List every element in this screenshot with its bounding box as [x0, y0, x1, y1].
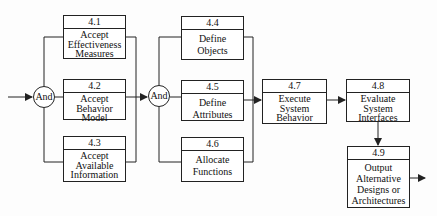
label-line: Interfaces	[347, 113, 409, 123]
function-box-4-5: 4.5 Define Attributes	[181, 80, 244, 121]
box-label: Output Alternative Designs or Architectu…	[348, 160, 409, 206]
box-number: 4.7	[263, 80, 326, 93]
box-label: Evaluate System Interfaces	[347, 93, 409, 123]
label-line: Functions	[182, 166, 243, 178]
label-line: Attributes	[182, 109, 243, 121]
function-box-4-6: 4.6 Allocate Functions	[181, 137, 244, 182]
box-number: 4.4	[182, 17, 243, 30]
box-number: 4.5	[182, 81, 243, 94]
box-label: Execute System Behavior	[263, 93, 326, 123]
box-label: Define Attributes	[182, 94, 243, 121]
box-label: Allocate Functions	[182, 151, 243, 178]
label-line: Model	[64, 113, 125, 123]
function-box-4-7: 4.7 Execute System Behavior	[262, 79, 327, 124]
box-label: Accept Available Information	[64, 150, 125, 180]
box-number: 4.1	[64, 16, 125, 29]
and-gate-1: And	[33, 86, 55, 108]
function-box-4-8: 4.8 Evaluate System Interfaces	[346, 79, 410, 122]
label-line: Output	[348, 162, 409, 173]
box-label: Define Objects	[182, 30, 243, 57]
label-line: Define	[182, 33, 243, 45]
box-number: 4.6	[182, 138, 243, 151]
label-line: Behavior	[263, 113, 326, 123]
label-line: Information	[64, 170, 125, 180]
function-box-4-9: 4.9 Output Alternative Designs or Archit…	[347, 146, 410, 208]
label-line: Objects	[182, 45, 243, 57]
label-line: Alternative	[348, 173, 409, 184]
label-line: Architectures	[348, 195, 409, 206]
box-number: 4.8	[347, 80, 409, 93]
box-label: Accept Effectiveness Measures	[64, 29, 125, 59]
label-line: Define	[182, 97, 243, 109]
function-box-4-3: 4.3 Accept Available Information	[63, 136, 126, 182]
functional-flow-diagram: And And 4.1 Accept Effectiveness Measure…	[0, 0, 437, 216]
label-line: Allocate	[182, 154, 243, 166]
label-line: Designs or	[348, 184, 409, 195]
box-label: Accept Behavior Model	[64, 93, 125, 123]
function-box-4-2: 4.2 Accept Behavior Model	[63, 79, 126, 120]
function-box-4-1: 4.1 Accept Effectiveness Measures	[63, 15, 126, 59]
label-line: Measures	[64, 49, 125, 59]
and-gate-2: And	[148, 85, 170, 107]
box-number: 4.2	[64, 80, 125, 93]
function-box-4-4: 4.4 Define Objects	[181, 16, 244, 60]
box-number: 4.3	[64, 137, 125, 150]
box-number: 4.9	[348, 147, 409, 160]
